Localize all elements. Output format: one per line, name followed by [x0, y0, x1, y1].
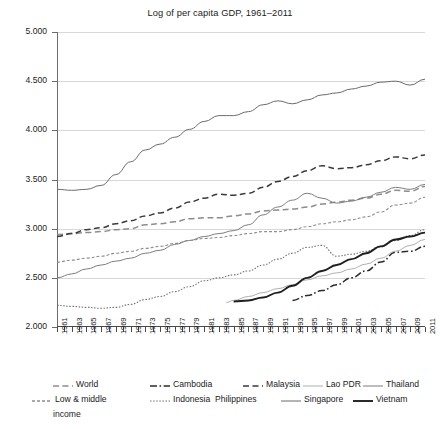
- legend-label: Thailand: [386, 378, 419, 391]
- x-tick-label: 1985: [237, 318, 246, 335]
- x-tick-label: 1973: [148, 318, 157, 335]
- legend-label-continuation: income: [53, 408, 81, 421]
- legend-swatch-icon: [150, 384, 170, 386]
- x-tick-label: 2011: [428, 318, 437, 334]
- x-tick-label: 1981: [207, 318, 216, 335]
- x-tick-label: 1989: [266, 318, 275, 335]
- chart-figure: Log of per capita GDP, 1961–2011 2.0002.…: [0, 0, 440, 429]
- legend-swatch-icon: [281, 399, 301, 401]
- x-tick-mark: [248, 327, 249, 332]
- x-tick-label: 1967: [104, 318, 113, 335]
- x-tick-mark: [366, 327, 367, 332]
- x-tick-label: 1991: [281, 318, 290, 335]
- y-tick-label: 5.000: [0, 26, 47, 36]
- x-tick-label: 1987: [251, 318, 260, 335]
- chart-legend: WorldCambodiaMalaysiaLao PDRThailand Low…: [0, 378, 440, 426]
- y-tick-label: 3.500: [0, 174, 47, 184]
- x-tick-label: 1969: [119, 318, 128, 335]
- x-tick-mark: [204, 327, 205, 332]
- x-tick-mark: [396, 327, 397, 332]
- x-tick-label: 1975: [163, 318, 172, 335]
- x-tick-label: 1995: [310, 318, 319, 335]
- x-tick-mark: [351, 327, 352, 332]
- x-tick-mark: [72, 327, 73, 332]
- legend-swatch-icon: [243, 384, 263, 386]
- x-tick-mark: [293, 327, 294, 332]
- legend-label: Low & middle: [55, 393, 107, 406]
- legend-swatch-icon: [150, 399, 170, 401]
- x-tick-label: 1971: [134, 318, 143, 335]
- legend-row-2: Low & middleIndonesiaPhilippinesSingapor…: [0, 393, 440, 407]
- x-tick-mark: [410, 327, 411, 332]
- y-tick-label: 2.000: [0, 321, 47, 331]
- series-line-cambodia: [293, 246, 425, 300]
- x-tick-label: 1979: [192, 318, 201, 335]
- x-tick-mark: [57, 327, 58, 332]
- legend-swatch-icon: [32, 399, 52, 401]
- x-tick-mark: [131, 327, 132, 332]
- legend-swatch-icon: [53, 384, 73, 386]
- y-tick-label: 4.000: [0, 124, 47, 134]
- x-tick-mark: [425, 327, 426, 332]
- x-tick-mark: [322, 327, 323, 332]
- legend-swatch-icon: [363, 384, 383, 386]
- x-tick-mark: [219, 327, 220, 332]
- legend-label: Vietnam: [376, 393, 407, 406]
- x-tick-label: 1963: [75, 318, 84, 335]
- x-tick-label: 2007: [399, 318, 408, 335]
- legend-swatch-icon: [303, 384, 323, 386]
- x-tick-label: 1999: [340, 318, 349, 335]
- y-tick-label: 4.500: [0, 75, 47, 85]
- x-tick-label: 1993: [296, 318, 305, 335]
- x-tick-label: 2003: [369, 318, 378, 335]
- series-lines: [57, 32, 425, 327]
- legend-row-1: WorldCambodiaMalaysiaLao PDRThailand: [0, 378, 440, 392]
- legend-label: Malaysia: [266, 378, 300, 391]
- x-tick-mark: [116, 327, 117, 332]
- legend-label: Philippines: [215, 393, 257, 406]
- x-tick-label: 2005: [384, 318, 393, 335]
- y-tick-label: 3.000: [0, 223, 47, 233]
- x-tick-mark: [160, 327, 161, 332]
- x-tick-label: 2001: [354, 318, 363, 335]
- x-tick-mark: [145, 327, 146, 332]
- x-tick-mark: [234, 327, 235, 332]
- x-tick-mark: [381, 327, 382, 332]
- chart-title: Log of per capita GDP, 1961–2011: [0, 8, 440, 18]
- legend-label: Singapore: [304, 393, 343, 406]
- x-tick-label: 1997: [325, 318, 334, 335]
- x-tick-mark: [307, 327, 308, 332]
- x-tick-mark: [278, 327, 279, 332]
- y-tick-label: 2.500: [0, 272, 47, 282]
- x-tick-label: 1961: [60, 318, 69, 335]
- legend-label: Cambodia: [173, 378, 212, 391]
- x-tick-mark: [337, 327, 338, 332]
- legend-label: Lao PDR: [326, 378, 361, 391]
- legend-label: Indonesia: [173, 393, 210, 406]
- x-tick-mark: [101, 327, 102, 332]
- legend-swatch-icon: [353, 399, 373, 401]
- x-tick-mark: [86, 327, 87, 332]
- series-line-singapore: [57, 79, 425, 190]
- x-tick-label: 1983: [222, 318, 231, 335]
- x-tick-mark: [175, 327, 176, 332]
- series-line-vietnam: [234, 233, 425, 302]
- x-tick-mark: [263, 327, 264, 332]
- series-line-malaysia: [57, 155, 425, 237]
- x-tick-mark: [189, 327, 190, 332]
- x-tick-label: 2009: [413, 318, 422, 335]
- x-tick-label: 1977: [178, 318, 187, 335]
- x-tick-label: 1965: [89, 318, 98, 335]
- plot-area: [57, 32, 425, 327]
- legend-label: World: [76, 378, 98, 391]
